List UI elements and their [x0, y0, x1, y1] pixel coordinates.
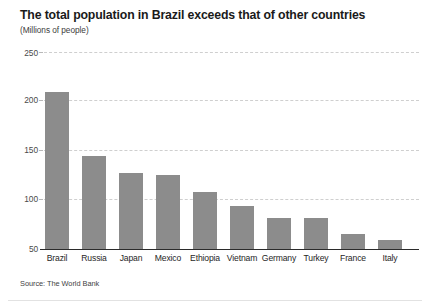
x-tick-label-germany: Germany — [260, 253, 298, 263]
bars-layer — [0, 0, 430, 249]
x-tick-label-turkey: Turkey — [298, 253, 334, 263]
x-tick-label-italy: Italy — [372, 253, 408, 263]
bar-vietnam — [230, 206, 254, 249]
x-tick-label-france: France — [335, 253, 371, 263]
x-axis-line — [40, 249, 419, 250]
x-tick-label-brazil: Brazil — [39, 253, 75, 263]
footer-divider — [8, 300, 422, 301]
bar-italy — [378, 240, 402, 249]
chart-figure: The total population in Brazil exceeds t… — [0, 0, 430, 308]
bar-france — [341, 234, 365, 249]
x-tick-label-ethiopia: Ethiopia — [186, 253, 224, 263]
bar-germany — [267, 218, 291, 249]
bar-mexico — [156, 175, 180, 249]
x-tick-label-japan: Japan — [113, 253, 149, 263]
bar-turkey — [304, 218, 328, 249]
source-note: Source: The World Bank — [20, 279, 99, 288]
x-tick-label-vietnam: Vietnam — [224, 253, 260, 263]
bar-ethiopia — [193, 192, 217, 249]
bar-japan — [119, 173, 143, 249]
x-tick-label-russia: Russia — [76, 253, 112, 263]
bar-russia — [82, 156, 106, 249]
bar-brazil — [45, 92, 69, 249]
x-tick-label-mexico: Mexico — [150, 253, 186, 263]
